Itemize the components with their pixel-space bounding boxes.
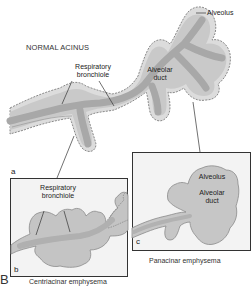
panel-letter-b: b [14,265,18,274]
caption-centriacinar: Centriacinar emphysema [29,278,107,285]
panel-letter-a: a [11,167,15,176]
label-respiratory-bronchiole-b-line1: Respiratory [33,184,83,192]
caption-panacinar: Panacinar emphysema [149,257,221,264]
figure-panel-letter-B: B [0,272,9,286]
label-alveolar-duct-top-line1: Alveolar [143,66,177,74]
label-respiratory-bronchiole-top-line2: bronchiole [68,71,118,79]
label-alveolar-duct-c-line1: Alveolar [192,189,232,197]
normal-acinus-drawing [10,7,230,152]
label-respiratory-bronchiole-top-line1: Respiratory [68,63,118,71]
panel-letter-c: c [136,237,140,246]
label-alveolar-duct-c-line2: duct [192,197,232,205]
normal-acinus-title: NORMAL ACINUS [26,43,89,52]
label-alveolus-top: Alveolus [207,9,233,17]
label-alveolus-c: Alveolus [192,173,232,181]
label-respiratory-bronchiole-b-line2: bronchiole [33,192,83,200]
label-alveolar-duct-top-line2: duct [143,74,177,82]
